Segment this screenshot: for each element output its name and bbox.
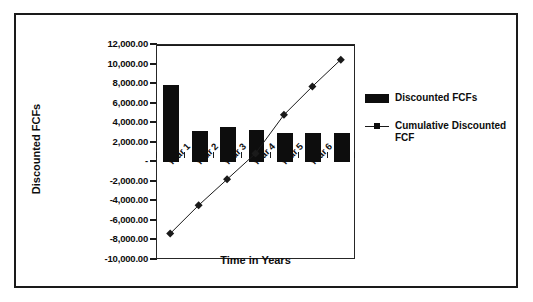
legend-label: Cumulative Discounted FCF [395,120,510,144]
y-axis-tick-label: 4,000.00 [113,117,148,127]
y-axis-tick-label: 2,000.00 [113,137,148,147]
legend-label: Discounted FCFs [395,92,477,104]
chart-figure: Discounted FCFs 12,000.0010,000.008,000.… [0,0,533,302]
x-axis-tick-labels: Year 1Year 2Year 3Year 4Year 5Year 6 [156,158,366,218]
y-axis-tick-label: 6,000.00 [113,98,148,108]
y-axis-tick-label: -8,000.00 [110,234,148,244]
legend-entry-cumulative-discounted-fcf: Cumulative Discounted FCF [365,120,515,144]
y-axis-tick-label: 12,000.00 [108,39,148,49]
y-axis-tick-label: - [145,156,148,166]
y-axis-title-label: Discounted FCFs [30,104,42,194]
x-axis-title: Time in Years [156,254,355,266]
y-axis-tick-label: -2,000.00 [110,176,148,186]
y-axis-tick-label: -6,000.00 [110,215,148,225]
y-axis-title: Discounted FCFs [26,84,46,214]
chart-legend: Discounted FCFs Cumulative Discounted FC… [365,92,515,160]
y-axis-tick-label: -10,000.00 [105,254,148,264]
y-axis-tick-labels: 12,000.0010,000.008,000.006,000.004,000.… [58,44,148,259]
y-axis-tick-label: 8,000.00 [113,78,148,88]
line-marker-swatch-icon [365,122,389,131]
bar-swatch-icon [365,94,389,103]
y-axis-tick-label: -4,000.00 [110,195,148,205]
zero-baseline [157,45,354,46]
y-axis-tick-label: 10,000.00 [108,59,148,69]
legend-entry-discounted-fcfs: Discounted FCFs [365,92,515,104]
